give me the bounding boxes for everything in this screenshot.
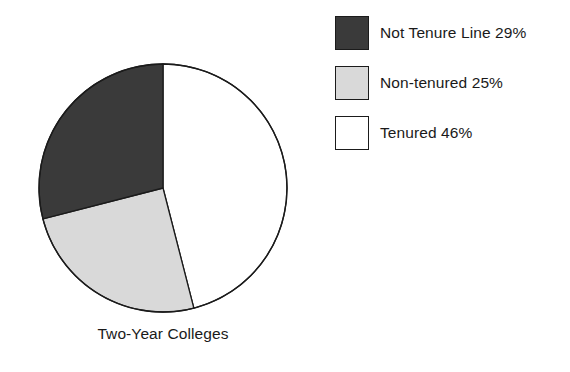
pie-chart-plot-area: Two-Year Colleges [0,0,330,372]
pie-chart-figure: Two-Year Colleges Not Tenure Line 29% No… [0,0,570,372]
legend-label-not-tenure-line: Not Tenure Line 29% [380,24,526,42]
pie-slice-group [39,64,287,312]
pie-chart-svg [0,0,330,372]
legend-swatch-not-tenure-line [335,16,369,50]
legend-label-tenured: Tenured 46% [380,124,472,142]
legend-item-tenured: Tenured 46% [335,108,567,158]
chart-legend: Not Tenure Line 29% Non-tenured 25% Tenu… [335,8,567,158]
legend-label-non-tenured: Non-tenured 25% [380,74,503,92]
legend-item-not-tenure-line: Not Tenure Line 29% [335,8,567,58]
legend-item-non-tenured: Non-tenured 25% [335,58,567,108]
legend-swatch-non-tenured [335,66,369,100]
pie-caption: Two-Year Colleges [0,325,326,343]
legend-swatch-tenured [335,116,369,150]
